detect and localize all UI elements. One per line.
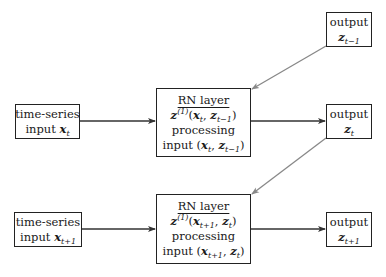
node-title: RN layer bbox=[178, 93, 230, 108]
node-label: time-series bbox=[15, 107, 80, 122]
node-function: z(1)(xt+1, zt) bbox=[171, 214, 237, 229]
edge-output-t-to-rn-tp1 bbox=[252, 138, 326, 194]
node-input-tp1: time-series input xt+1 bbox=[14, 212, 82, 247]
node-function: z(1)(xt, zt−1) bbox=[171, 108, 237, 123]
node-label: output bbox=[330, 107, 368, 122]
node-output-t: output zt bbox=[326, 104, 372, 139]
node-label: time-series bbox=[16, 215, 81, 230]
node-label: processing bbox=[172, 229, 235, 244]
node-output-tm1: output zt−1 bbox=[326, 12, 372, 47]
node-rn-layer-tp1: RN layer z(1)(xt+1, zt) processing input… bbox=[156, 194, 251, 264]
node-label: output bbox=[330, 15, 368, 30]
node-label: output bbox=[330, 215, 368, 230]
node-input-args: input (xt, zt−1) bbox=[162, 138, 244, 153]
node-var: zt−1 bbox=[338, 30, 360, 45]
node-output-tp1: output zt+1 bbox=[326, 212, 372, 247]
node-var: zt+1 bbox=[338, 230, 360, 245]
node-title: RN layer bbox=[178, 199, 230, 214]
node-var: zt bbox=[344, 122, 354, 137]
node-label: processing bbox=[172, 123, 235, 138]
node-var: input xt+1 bbox=[20, 230, 76, 245]
node-var: input xt bbox=[25, 122, 69, 137]
node-input-t: time-series input xt bbox=[15, 104, 80, 139]
node-input-args: input (xt+1, zt) bbox=[162, 244, 244, 259]
edge-output-tm1-to-rn-t bbox=[252, 46, 326, 89]
node-rn-layer-t: RN layer z(1)(xt, zt−1) processing input… bbox=[156, 88, 251, 157]
